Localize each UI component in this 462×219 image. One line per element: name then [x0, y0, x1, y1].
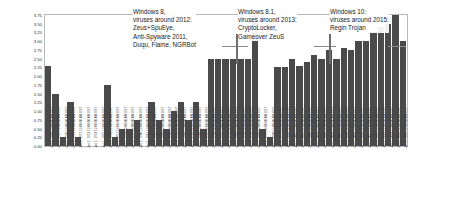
x-tick-label: Jan 1, 1977 12:00:00 AM EST: [116, 107, 120, 148]
annotation-marker-2: [329, 34, 331, 64]
x-tick-label: Jan 1, 2008 12:00:00 AM EST: [345, 107, 349, 148]
y-tick-label: 0.50: [2, 126, 42, 131]
x-tick-label: Jan 1, 1992 12:00:00 AM EST: [227, 107, 231, 148]
y-tick-label: 2.50: [2, 56, 42, 61]
y-tick-label: 2.25: [2, 65, 42, 70]
x-tick-label: Jan 1, 1971 12:00:00 AM EST: [72, 107, 76, 148]
x-tick-label: Jan 1, 1976 12:00:00 AM EST: [109, 107, 113, 148]
x-tick-label: Jan 1, 1983 12:00:00 AM EST: [161, 107, 165, 148]
chart-root: Frequency 3.753.503.253.002.752.502.252.…: [0, 0, 462, 219]
x-tick-label: Jan 1, 2010 12:00:00 AM EST: [360, 107, 364, 148]
x-tick-label: Jan 1, 2016 12:00:00 AM EST: [404, 107, 408, 148]
x-tick-label: Jan 1, 1974 12:00:00 AM EST: [94, 107, 98, 148]
x-tick-label: Jan 1, 1973 12:00:00 AM EST: [87, 107, 91, 148]
y-tick-label: 1.50: [2, 91, 42, 96]
x-tick-label: Jan 1, 2006 12:00:00 AM EST: [331, 107, 335, 148]
x-tick-label: Jan 1, 1985 12:00:00 AM EST: [175, 107, 179, 148]
annotation-leader-line-1: [222, 46, 248, 47]
x-tick-label: Jan 1, 1979 12:00:00 AM EST: [131, 107, 135, 148]
y-tick-label: 0.25: [2, 135, 42, 140]
x-tick-label: Jan 1, 2011 12:00:00 AM EST: [368, 107, 372, 148]
x-axis-ticks: Jan 1, 1968 12:00:00 AM ESTJan 1, 1969 1…: [45, 148, 407, 219]
y-tick-label: 1.75: [2, 82, 42, 87]
y-tick-label: 1.25: [2, 100, 42, 105]
x-tick-label: Jan 1, 1975 12:00:00 AM EST: [102, 107, 106, 148]
y-tick-label: 0.00: [2, 144, 42, 149]
x-tick-label: Jan 1, 1968 12:00:00 AM EST: [50, 107, 54, 148]
x-tick-label: Jan 1, 1982 12:00:00 AM EST: [153, 107, 157, 148]
y-tick-label: 3.25: [2, 30, 42, 35]
annotation-leader-line-3: [388, 46, 406, 47]
x-tick-label: Jan 1, 1993 12:00:00 AM EST: [235, 107, 239, 148]
x-tick-label: Jan 1, 1995 12:00:00 AM EST: [249, 107, 253, 148]
x-tick-label: Jan 1, 2014 12:00:00 AM EST: [390, 107, 394, 148]
x-tick-label: Jan 1, 1987 12:00:00 AM EST: [190, 107, 194, 148]
x-tick-label: Jan 1, 2012 12:00:00 AM EST: [375, 107, 379, 148]
x-tick-label: Jan 1, 1984 12:00:00 AM EST: [168, 107, 172, 148]
y-tick-label: 1.00: [2, 109, 42, 114]
x-tick-label: Jan 1, 1978 12:00:00 AM EST: [124, 107, 128, 148]
x-tick-label: Jan 1, 2007 12:00:00 AM EST: [338, 107, 342, 148]
x-tick-label: Jan 1, 1990 12:00:00 AM EST: [212, 107, 216, 148]
x-tick-label: Jan 1, 1998 12:00:00 AM EST: [272, 107, 276, 148]
x-tick-label: Jan 1, 2002 12:00:00 AM EST: [301, 107, 305, 148]
annotation-leader-line-2: [314, 46, 336, 47]
x-tick-label: Jan 1, 2005 12:00:00 AM EST: [323, 107, 327, 148]
x-tick-label: Jan 1, 1980 12:00:00 AM EST: [139, 107, 143, 148]
x-tick-label: Jan 1, 1999 12:00:00 AM EST: [279, 107, 283, 148]
x-tick-label: Jan 1, 1972 12:00:00 AM EST: [79, 107, 83, 148]
x-tick-label: Jan 1, 1970 12:00:00 AM EST: [65, 107, 69, 148]
annotation-windows-81: Windows 8.1, viruses around 2013: Crypto…: [238, 8, 297, 41]
x-tick-label: Jan 1, 1988 12:00:00 AM EST: [198, 107, 202, 148]
y-tick-label: 0.75: [2, 117, 42, 122]
x-tick-label: Jan 1, 1986 12:00:00 AM EST: [183, 107, 187, 148]
x-tick-label: Jan 1, 1969 12:00:00 AM EST: [57, 107, 61, 148]
y-axis-ticks: 3.753.503.253.002.752.502.252.001.751.50…: [0, 14, 42, 147]
y-tick-label: 2.00: [2, 74, 42, 79]
x-tick-label: Jan 1, 1994 12:00:00 AM EST: [242, 107, 246, 148]
x-tick-label: Jan 1, 2003 12:00:00 AM EST: [308, 107, 312, 148]
x-tick-label: Jan 1, 2015 12:00:00 AM EST: [397, 107, 401, 148]
annotation-windows-10: Windows 10: viruses around 2015: Regin T…: [330, 8, 389, 33]
x-tick-label: Jan 1, 2004 12:00:00 AM EST: [316, 107, 320, 148]
x-tick-label: Jan 1, 1996 12:00:00 AM EST: [257, 107, 261, 148]
x-tick-label: Jan 1, 1981 12:00:00 AM EST: [146, 107, 150, 148]
x-tick-label: Jan 1, 2009 12:00:00 AM EST: [353, 107, 357, 148]
y-tick-label: 2.75: [2, 47, 42, 52]
x-tick-label: Jan 1, 2001 12:00:00 AM EST: [294, 107, 298, 148]
y-tick-label: 3.75: [2, 13, 42, 18]
x-tick-label: Jan 1, 2013 12:00:00 AM EST: [382, 107, 386, 148]
y-tick-label: 3.00: [2, 39, 42, 44]
x-tick-label: Jan 1, 1989 12:00:00 AM EST: [205, 107, 209, 148]
x-tick-label: Jan 1, 2000 12:00:00 AM EST: [286, 107, 290, 148]
x-tick-label: Jan 1, 1991 12:00:00 AM EST: [220, 107, 224, 148]
x-tick-label: Jan 1, 1997 12:00:00 AM EST: [264, 107, 268, 148]
annotation-windows-8: Windows 8, viruses around 2012: Zeus+Spu…: [133, 8, 196, 49]
y-tick-label: 3.50: [2, 21, 42, 26]
